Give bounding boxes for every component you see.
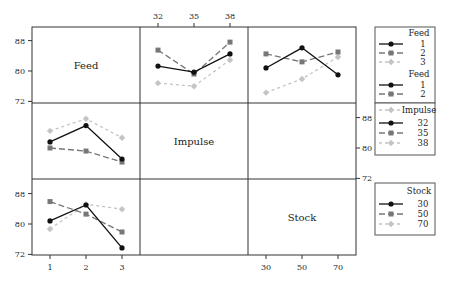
top-tick-label: 32 [153,12,163,21]
square-marker [228,40,233,45]
left-tick-label: 88 [15,190,25,199]
diamond-marker [191,83,197,89]
bottom-tick-label: 70 [333,263,343,272]
square-marker [300,59,305,64]
legend-title: Impulse [402,105,436,115]
legend-entry-label: 38 [418,138,429,148]
diamond-marker [119,206,125,212]
square-marker [84,212,89,217]
circle-marker [47,139,52,144]
bottom-tick-label: 2 [83,263,88,272]
series-line-impulse-32 [50,126,122,159]
circle-marker [191,70,196,75]
legend-entry-label: 70 [418,219,429,229]
legend-entry-label: 50 [418,209,429,219]
right-tick-label: 88 [362,114,372,123]
circle-marker [335,72,340,77]
square-marker [389,131,394,136]
diagonal-label-feed: Feed [74,60,99,71]
square-marker [156,48,161,53]
square-marker [389,92,394,97]
circle-marker [388,120,393,125]
diamond-marker [47,128,53,134]
diagonal-label-stock: Stock [288,212,317,223]
legend-entry-label: 2 [420,89,425,99]
diamond-marker [47,226,53,232]
circle-marker [227,51,232,56]
left-tick-label: 72 [15,97,25,106]
left-tick-label: 80 [15,67,25,76]
legend-title: Feed [409,69,430,79]
panel-feed-by-stock [263,45,341,96]
bottom-tick-label: 3 [119,263,124,272]
legend-entry-label: 35 [418,128,429,138]
legend-feed: Feed123Feed12 [375,27,435,103]
left-tick-label: 72 [15,250,25,259]
circle-marker [388,201,393,206]
legends: Feed123Feed12Impulse323538Stock305070 [375,27,436,235]
square-marker [389,51,394,56]
circle-marker [388,82,393,87]
legend-title: Feed [409,28,430,38]
circle-marker [155,63,160,68]
diamond-marker [83,116,89,122]
bottom-tick-label: 30 [261,263,271,272]
top-tick-label: 38 [225,12,235,21]
diamond-marker [155,80,161,86]
top-tick-label: 35 [189,12,199,21]
legend-entry-label: 32 [418,118,429,128]
interaction-plot-matrix: 323538123305070888072888072888072 FeedIm… [0,0,455,286]
diamond-marker [227,57,233,63]
square-marker [48,199,53,204]
circle-marker [263,65,268,70]
circle-marker [299,45,304,50]
right-tick-label: 80 [362,144,372,153]
circle-marker [83,123,88,128]
left-tick-label: 80 [15,220,25,229]
left-tick-label: 88 [15,37,25,46]
panel-impulse-by-feed [47,116,125,165]
square-marker [120,229,125,234]
circle-marker [388,41,393,46]
diamond-marker [263,89,269,95]
square-marker [48,146,53,151]
series-line-feed-2 [158,42,230,74]
legend-box [375,27,435,103]
diamond-marker [119,135,125,141]
right-tick-label: 72 [362,174,372,183]
diamond-marker [335,54,341,60]
legend-title: Stock [407,186,432,196]
legend-entry-label: 30 [418,199,429,209]
bottom-tick-label: 50 [297,263,307,272]
square-marker [264,51,269,56]
panel-stock-by-feed [47,199,125,250]
circle-marker [83,202,88,207]
square-marker [336,50,341,55]
legend-entry-label: 3 [420,57,425,67]
circle-marker [119,156,124,161]
circle-marker [47,218,52,223]
circle-marker [119,245,124,250]
legend-stock: Stock305070 [375,183,435,235]
square-marker [84,149,89,154]
diagonal-label-impulse: Impulse [174,136,215,147]
panel-feed-by-impulse [155,40,233,90]
diamond-marker [299,76,305,82]
square-marker [389,212,394,217]
legend-impulse: Impulse323538 [375,103,436,155]
bottom-tick-label: 1 [47,263,52,272]
